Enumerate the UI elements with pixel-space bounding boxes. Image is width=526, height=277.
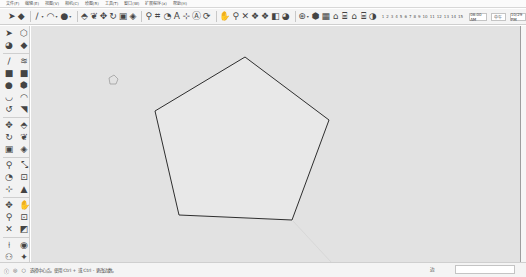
shape-button[interactable]: ● — [60, 11, 68, 23]
text-button[interactable]: A — [173, 11, 180, 23]
text-button[interactable]: ⊡ — [18, 172, 30, 183]
line-button[interactable]: ∕ — [3, 56, 15, 67]
move-button[interactable]: ✥ — [3, 120, 15, 131]
menu-item-7[interactable]: 扩展程序(x) — [145, 0, 167, 8]
dimension-button[interactable]: ⤡ — [18, 160, 30, 171]
scene-tab[interactable]: 15 — [458, 14, 463, 19]
scene-tab[interactable]: 3 — [391, 14, 394, 19]
axes-button[interactable]: ⊹ — [3, 184, 15, 195]
two-point-arc-button[interactable]: ◠ — [18, 92, 30, 103]
offset-button[interactable]: ◈ — [129, 11, 136, 23]
line-button[interactable]: ∕ — [33, 11, 40, 23]
scene-tab[interactable]: 13 — [444, 14, 449, 19]
scale-button[interactable]: ▣ — [3, 144, 15, 155]
look-around-button[interactable]: ◉ — [18, 240, 30, 251]
scale-button[interactable]: ▣ — [119, 11, 128, 23]
rotate-button[interactable]: ↻ — [109, 11, 117, 23]
polygon-button[interactable]: ⬢ — [18, 80, 30, 91]
top-view-button[interactable]: ▦ — [322, 11, 331, 23]
menu-item-6[interactable]: 窗口(W) — [124, 0, 139, 8]
shadow-time-field[interactable]: 06:00 AM — [469, 13, 487, 21]
menu-item-0[interactable]: 文件(F) — [6, 0, 19, 8]
follow-me-button[interactable]: ❦ — [90, 11, 98, 23]
zoom-button[interactable]: ⚲ — [232, 11, 239, 23]
tape-measure-button[interactable]: ⚲ — [3, 160, 15, 171]
left-view-button[interactable]: ⌸ — [360, 11, 367, 23]
warehouse-button[interactable]: ❖ — [251, 11, 259, 23]
scene-tab[interactable]: 2 — [386, 14, 389, 19]
scene-tab[interactable]: 6 — [404, 14, 407, 19]
orbit-button[interactable]: ✥ — [3, 200, 15, 211]
iso-view-button[interactable]: ⬢ — [312, 11, 320, 23]
circle-button[interactable]: ● — [3, 80, 15, 91]
shadow-date-field[interactable]: 10/29 PM — [510, 13, 526, 21]
chevron-down-icon[interactable]: ▾ — [307, 14, 309, 19]
zoom-extents-button[interactable]: ✕ — [3, 224, 15, 235]
model-canvas[interactable] — [31, 26, 520, 262]
arc-button[interactable]: ◡ — [3, 92, 15, 103]
pentagon-face[interactable] — [155, 57, 329, 220]
scene-tab[interactable]: 4 — [395, 14, 398, 19]
chevron-down-icon[interactable]: ▾ — [55, 14, 57, 19]
zoom-extents-button[interactable]: ✕ — [241, 11, 249, 23]
pan-button[interactable]: ✋ — [18, 200, 30, 211]
eraser-button[interactable]: ◆ — [18, 11, 25, 23]
scene-tab[interactable]: 14 — [451, 14, 456, 19]
paint-bucket-button[interactable]: ◕ — [282, 11, 290, 23]
move-button[interactable]: ✥ — [100, 11, 108, 23]
push-pull-button[interactable]: ⬘ — [18, 120, 30, 131]
3d-text-button[interactable]: Ⓐ — [192, 11, 201, 23]
rotated-rectangle-button[interactable]: ■ — [18, 68, 30, 79]
protractor-button[interactable]: ◔ — [3, 172, 15, 183]
axes-button[interactable]: ⊹ — [183, 11, 191, 23]
scene-tab[interactable]: 11 — [430, 14, 435, 19]
walk-button[interactable]: ⊛ — [298, 11, 306, 23]
menu-item-1[interactable]: 编辑(E) — [25, 0, 39, 8]
credits-icon[interactable]: ○ — [21, 267, 25, 273]
scene-tab[interactable]: 12 — [437, 14, 442, 19]
orbit-button[interactable]: ⟳ — [203, 11, 211, 23]
menu-item-2[interactable]: 视图(V) — [45, 0, 59, 8]
follow-me-button[interactable]: ❦ — [18, 132, 30, 143]
menu-item-3[interactable]: 相机(C) — [65, 0, 79, 8]
rectangle-button[interactable]: ■ — [3, 68, 15, 79]
front-view-button[interactable]: ⌂ — [332, 11, 339, 23]
scene-tab[interactable]: 10 — [423, 14, 428, 19]
shadow-button[interactable]: ◑ — [369, 11, 377, 23]
back-view-button[interactable]: ⌂ — [350, 11, 357, 23]
zoom-window-button[interactable]: ⊡ — [18, 212, 30, 223]
zoom-button[interactable]: ⚲ — [3, 212, 15, 223]
position-camera-button[interactable]: ⍿ — [3, 240, 15, 251]
push-pull-button[interactable]: ⬘ — [81, 11, 88, 23]
scene-tab[interactable]: 8 — [413, 14, 416, 19]
pie-button[interactable]: ◥ — [18, 104, 30, 115]
three-point-arc-button[interactable]: ↺ — [3, 104, 15, 115]
protractor-button[interactable]: ◔ — [163, 11, 171, 23]
scene-tab[interactable]: 5 — [400, 14, 403, 19]
dimension-button[interactable]: ⌗ — [154, 11, 161, 23]
menu-item-8[interactable]: 帮助(H) — [173, 0, 187, 8]
select-button[interactable]: ➤ — [3, 28, 15, 39]
rotate-button[interactable]: ↻ — [3, 132, 15, 143]
geo-location-icon[interactable]: ◎ — [13, 267, 17, 273]
chevron-down-icon[interactable]: ▾ — [42, 14, 44, 19]
scene-tab[interactable]: 1 — [382, 14, 385, 19]
tape-measure-button[interactable]: ⚲ — [145, 11, 152, 23]
chevron-down-icon[interactable]: ▾ — [69, 14, 71, 19]
select-button[interactable]: ➤ — [8, 11, 16, 23]
menu-item-4[interactable]: 绘图(R) — [85, 0, 99, 8]
3d-text-button[interactable]: ▲ — [18, 184, 30, 195]
drawing-viewport[interactable] — [31, 26, 520, 262]
layout-button[interactable]: ◧ — [271, 11, 280, 23]
eraser-button[interactable]: ◆ — [18, 40, 30, 51]
right-view-button[interactable]: ⌸ — [341, 11, 348, 23]
scene-tab[interactable]: 7 — [409, 14, 412, 19]
measurements-input[interactable] — [455, 265, 515, 274]
paint-bucket-button[interactable]: ◕ — [3, 40, 15, 51]
pan-button[interactable]: ✋ — [219, 11, 230, 23]
offset-button[interactable]: ◈ — [18, 144, 30, 155]
scene-tab[interactable]: 9 — [418, 14, 421, 19]
component-button[interactable]: ⬡ — [18, 28, 30, 39]
previous-view-button[interactable]: ◩ — [18, 224, 30, 235]
extension-warehouse-button[interactable]: ❖ — [261, 11, 269, 23]
